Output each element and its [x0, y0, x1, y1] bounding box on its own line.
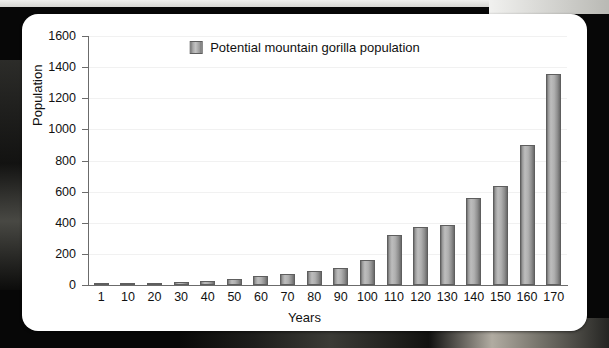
y-axis-title: Population: [30, 65, 45, 126]
x-tick-label: 90: [334, 290, 348, 304]
bar-slot: 1: [88, 36, 115, 285]
x-tick-label: 160: [517, 290, 538, 304]
screenshot-page: Potential mountain gorilla population 02…: [0, 0, 609, 348]
bar[interactable]: [94, 283, 109, 285]
bar-slot: 10: [115, 36, 142, 285]
bar[interactable]: [387, 235, 402, 285]
bar[interactable]: [520, 145, 535, 285]
bar[interactable]: [413, 227, 428, 285]
bar[interactable]: [147, 283, 162, 285]
bar[interactable]: [360, 260, 375, 285]
bar[interactable]: [200, 281, 215, 285]
x-tick-label: 70: [281, 290, 295, 304]
x-tick-label: 120: [410, 290, 431, 304]
bar-slot: 120: [407, 36, 434, 285]
x-tick-label: 50: [227, 290, 241, 304]
bar[interactable]: [253, 276, 268, 285]
x-tick-label: 30: [174, 290, 188, 304]
bar-slot: 30: [168, 36, 195, 285]
bar-slot: 170: [540, 36, 567, 285]
bar-slot: 70: [274, 36, 301, 285]
bar[interactable]: [120, 283, 135, 285]
bar-slot: 160: [514, 36, 541, 285]
bar[interactable]: [440, 225, 455, 285]
bar-slot: 140: [461, 36, 488, 285]
y-tick-label: 1600: [22, 28, 76, 44]
chart-plot-wrapper: Potential mountain gorilla population 02…: [22, 14, 587, 331]
y-tick-label: 600: [22, 184, 76, 200]
x-tick-label: 140: [463, 290, 484, 304]
bar[interactable]: [333, 268, 348, 285]
x-tick-label: 40: [201, 290, 215, 304]
x-tick-label: 1: [98, 290, 105, 304]
x-tick-label: 20: [148, 290, 162, 304]
bar[interactable]: [307, 271, 322, 285]
y-tick-label: 0: [22, 277, 76, 293]
bar-slot: 130: [434, 36, 461, 285]
bar[interactable]: [493, 186, 508, 285]
bar[interactable]: [174, 282, 189, 285]
chart-card: Potential mountain gorilla population 02…: [22, 14, 587, 331]
bar-slot: 150: [487, 36, 514, 285]
bar-slot: 20: [141, 36, 168, 285]
x-tick-label: 150: [490, 290, 511, 304]
bar[interactable]: [280, 274, 295, 285]
x-tick-label: 100: [357, 290, 378, 304]
bar[interactable]: [466, 198, 481, 285]
bar[interactable]: [227, 279, 242, 285]
x-tick-label: 10: [121, 290, 135, 304]
bar-series-container: 1102030405060708090100110120130140150160…: [88, 36, 567, 285]
backdrop-top-right-photo: [489, 0, 609, 14]
bar-slot: 60: [248, 36, 275, 285]
x-axis-line: [88, 285, 568, 286]
y-tick-mark: [82, 285, 88, 286]
bar-slot: 100: [354, 36, 381, 285]
x-tick-label: 170: [543, 290, 564, 304]
x-tick-label: 110: [384, 290, 404, 304]
x-axis-title: Years: [22, 310, 587, 325]
bar-slot: 90: [327, 36, 354, 285]
x-tick-label: 80: [307, 290, 321, 304]
x-tick-label: 130: [437, 290, 458, 304]
y-tick-label: 400: [22, 215, 76, 231]
bar-slot: 110: [381, 36, 408, 285]
bar-slot: 50: [221, 36, 248, 285]
x-tick-label: 60: [254, 290, 268, 304]
y-tick-label: 800: [22, 153, 76, 169]
bar-slot: 40: [194, 36, 221, 285]
bar-slot: 80: [301, 36, 328, 285]
bar[interactable]: [546, 74, 561, 285]
y-tick-label: 200: [22, 246, 76, 262]
